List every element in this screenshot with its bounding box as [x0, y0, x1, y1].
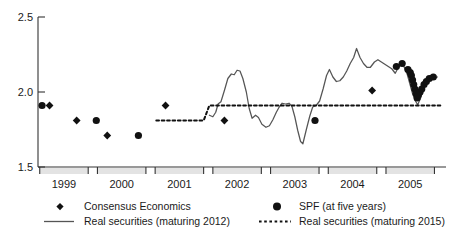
data-line	[156, 106, 442, 121]
data-point-circle	[135, 132, 142, 139]
legend-label-spf: SPF (at five years)	[299, 200, 386, 212]
y-axis-ticks: 2.52.01.5	[18, 11, 45, 173]
chart-axes	[38, 17, 446, 167]
y-tick-label: 1.5	[18, 161, 33, 173]
chart-figure: 2.52.01.5 1999200020012002200320042005 C…	[0, 0, 451, 239]
data-point-diamond	[73, 117, 81, 125]
data-point-circle	[399, 60, 406, 67]
data-point-circle	[430, 73, 437, 80]
axis-band	[328, 168, 376, 174]
series-spf-five-years	[38, 60, 436, 139]
x-tick-label: 1999	[52, 178, 76, 190]
legend-diamond-icon	[56, 203, 63, 210]
series-consensus-economics	[46, 87, 376, 140]
data-point-circle	[38, 102, 45, 109]
y-tick-label: 2.0	[18, 86, 33, 98]
data-point-circle	[311, 117, 318, 124]
legend-label-real-securities-2015: Real securities (maturing 2015)	[299, 215, 445, 227]
data-point-diamond	[368, 87, 376, 95]
y-tick-label: 2.5	[18, 11, 33, 23]
data-point-diamond	[46, 102, 54, 110]
x-tick-label: 2002	[225, 178, 249, 190]
x-tick-label: 2000	[109, 178, 133, 190]
axis-band	[40, 168, 88, 174]
axis-band	[155, 168, 203, 174]
x-tick-label: 2005	[398, 178, 422, 190]
axis-band	[213, 168, 261, 174]
chart-legend: Consensus Economics SPF (at five years) …	[44, 200, 445, 227]
axis-band	[97, 168, 145, 174]
data-point-diamond	[220, 117, 228, 125]
legend-label-real-securities-2012: Real securities (maturing 2012)	[84, 215, 230, 227]
legend-label-consensus-economics: Consensus Economics	[84, 200, 191, 212]
data-point-diamond	[103, 132, 111, 140]
x-tick-label: 2004	[340, 178, 364, 190]
x-tick-label: 2001	[167, 178, 191, 190]
legend-circle-icon	[273, 203, 281, 211]
x-tick-label: 2003	[283, 178, 307, 190]
data-point-circle	[93, 117, 100, 124]
series-real-securities-2015	[156, 106, 442, 121]
axis-band	[386, 168, 434, 174]
axis-shading-bands	[40, 168, 435, 174]
chart-plot-area: 2.52.01.5 1999200020012002200320042005 C…	[0, 0, 451, 239]
axis-band	[271, 168, 319, 174]
data-point-diamond	[162, 102, 170, 110]
